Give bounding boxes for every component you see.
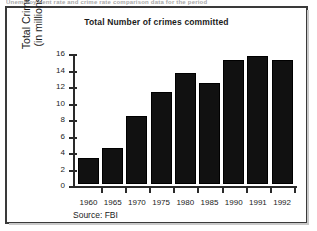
x-axis-line [73,186,297,188]
y-tick: 4 [69,153,77,155]
x-tick [197,186,199,193]
y-axis-title: Total Crimes (in millions) [21,0,44,70]
bar [223,60,244,184]
x-tick [149,186,151,193]
x-tick [270,186,272,193]
x-tick [173,186,175,193]
x-axis-label: 1992 [270,198,295,207]
y-tick-label: 8 [61,115,65,124]
source-note: Source: FBI [73,210,118,220]
y-tick-label: 0 [61,181,65,190]
y-tick: 6 [69,137,77,139]
y-tick: 12 [69,87,77,89]
y-tick: 10 [69,104,77,106]
x-tick [101,186,103,193]
bar [78,158,99,184]
x-axis-label: 1975 [149,198,174,207]
y-tick: 2 [69,170,77,172]
x-axis-label: 1960 [76,198,101,207]
x-axis-label: 1985 [197,198,222,207]
y-axis-title-line-2: (in millions) [33,0,45,70]
y-tick-label: 4 [61,148,65,157]
x-tick [125,186,127,193]
bar [102,148,123,184]
y-axis-title-line-1: Total Crimes [21,0,33,70]
x-tick [246,186,248,193]
page-top-cutoff-text: Unemployment rate and crime rate compari… [6,0,306,5]
x-axis-label: 1990 [221,198,246,207]
y-tick-label: 14 [56,66,65,75]
plot-area: 0246810121416 19601965197019751980198519… [73,54,311,186]
y-tick-label: 12 [56,82,65,91]
bar [151,92,172,184]
y-tick-label: 6 [61,132,65,141]
figure-frame: Total Number of crimes committed Total C… [5,6,308,224]
x-axis-label: 1980 [173,198,198,207]
bar [247,56,268,184]
x-axis-label: 1965 [100,198,125,207]
x-axis-label: 1991 [245,198,270,207]
y-tick: 16 [69,54,77,56]
y-tick: 0 [69,186,77,188]
y-tick: 8 [69,120,77,122]
x-tick [294,186,296,193]
chart-title: Total Number of crimes committed [7,17,306,27]
x-tick [222,186,224,193]
bar [126,116,147,184]
x-axis-label: 1970 [124,198,149,207]
y-tick-label: 2 [61,165,65,174]
bar [199,83,220,184]
bar [175,73,196,184]
y-tick-label: 10 [56,99,65,108]
y-tick: 14 [69,71,77,73]
y-tick-label: 16 [56,49,65,58]
bar [272,60,293,184]
